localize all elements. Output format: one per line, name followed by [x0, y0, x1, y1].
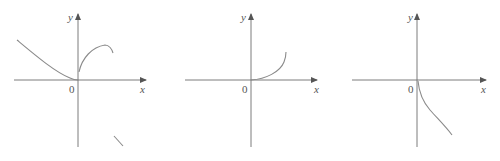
y-axis-label: y: [67, 11, 73, 23]
origin-label: 0: [408, 83, 414, 95]
figure-canvas: y x 0 y x 0 y x 0: [0, 0, 500, 161]
y-axis-label: y: [240, 11, 246, 23]
graph-1: y x 0: [14, 11, 146, 147]
curve-segment: [114, 136, 123, 146]
curve-left: [17, 40, 78, 80]
x-axis-label: x: [139, 83, 145, 95]
curve-arc: [79, 45, 113, 72]
graph-3: y x 0: [352, 11, 486, 147]
graph-2: y x 0: [185, 11, 319, 147]
curve-increasing: [251, 52, 286, 80]
origin-label: 0: [242, 83, 248, 95]
x-axis-label: x: [313, 83, 319, 95]
y-axis-label: y: [407, 11, 413, 23]
origin-label: 0: [69, 83, 75, 95]
curve-decreasing: [418, 81, 452, 135]
x-axis-label: x: [480, 83, 486, 95]
